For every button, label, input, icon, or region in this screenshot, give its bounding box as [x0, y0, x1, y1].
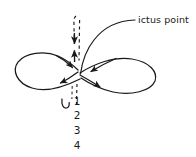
beat-number-2: 2 — [72, 110, 82, 121]
beat-number-1: 1 — [72, 96, 82, 107]
beat-number-3: 3 — [72, 125, 82, 136]
dashed-vertical-axis-icon — [72, 16, 80, 104]
left-loop-icon — [15, 53, 80, 90]
diagram-canvas: ictus point 1 2 3 4 — [0, 0, 196, 157]
right-loop-icon — [80, 58, 156, 93]
leader-line-icon — [81, 20, 136, 74]
beat-number-4: 4 — [72, 140, 82, 151]
rebound-hook-icon — [62, 99, 69, 108]
ictus-point-label: ictus point — [138, 14, 189, 25]
